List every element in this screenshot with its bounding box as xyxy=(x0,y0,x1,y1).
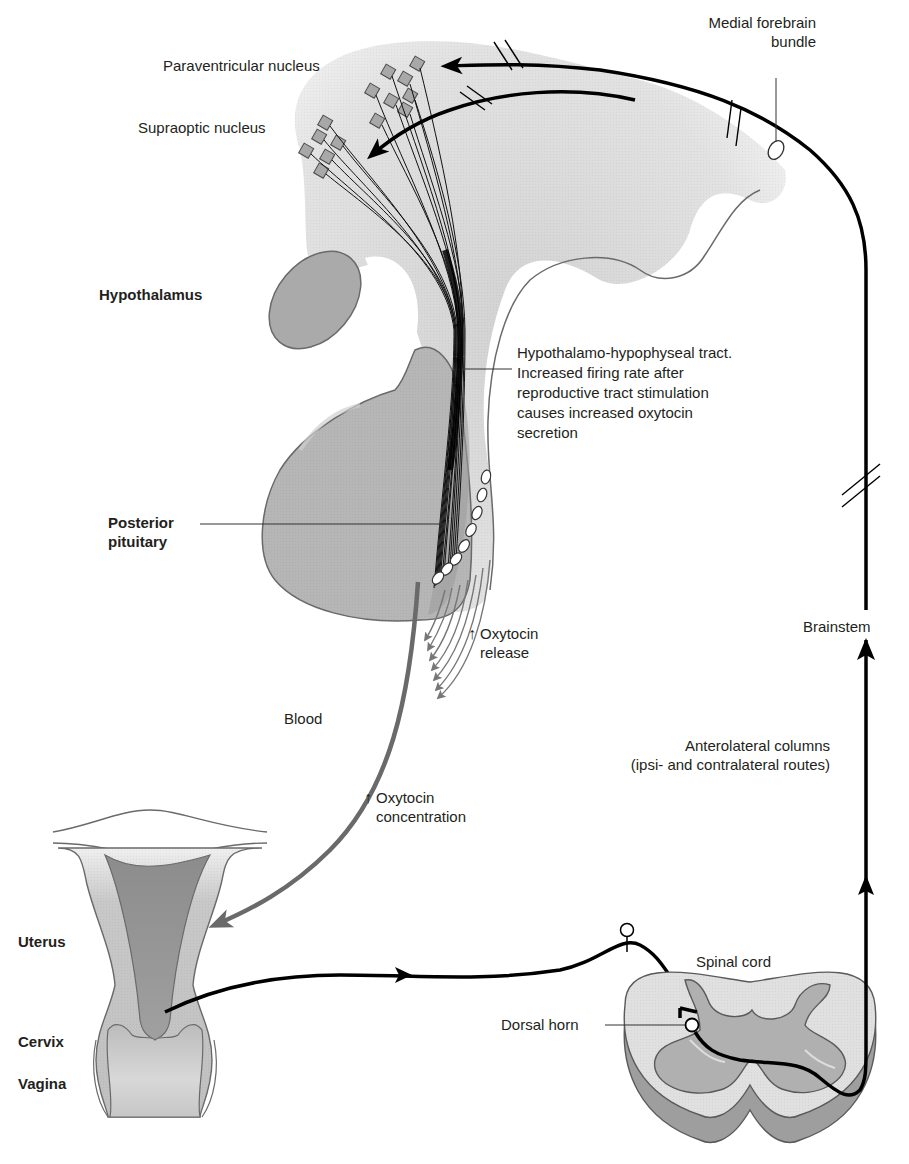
label-tract-line1: Hypothalamo-hypophyseal tract. xyxy=(517,343,732,363)
uterus-shape xyxy=(53,810,267,1117)
label-cervix: Cervix xyxy=(18,1032,64,1051)
label-medial-forebrain-bundle: Medial forebrain bundle xyxy=(686,13,816,51)
afferent-nerve-path xyxy=(165,943,688,1012)
label-oxytocin-concentration: ↑ Oxytocin concentration xyxy=(364,788,466,826)
label-tract-line4: causes increased oxytocin xyxy=(517,403,732,423)
blood-path xyxy=(215,582,418,925)
label-oc-line2: concentration xyxy=(376,807,466,826)
label-blood: Blood xyxy=(284,709,322,728)
label-brainstem: Brainstem xyxy=(803,617,871,636)
label-anterolateral-columns: Anterolateral columns (ipsi- and contral… xyxy=(600,736,830,774)
dorsal-root-ganglion-icon xyxy=(621,924,634,937)
label-vagina: Vagina xyxy=(18,1074,66,1093)
label-spinal-cord: Spinal cord xyxy=(696,952,771,971)
oxytocin-reflex-diagram xyxy=(0,0,909,1164)
label-uterus: Uterus xyxy=(18,932,66,951)
label-pp-line2: pituitary xyxy=(108,532,174,551)
label-pp-line1: Posterior xyxy=(108,513,174,532)
label-tract-line5: secretion xyxy=(517,423,732,443)
label-al-line2: (ipsi- and contralateral routes) xyxy=(600,755,830,774)
spinal-cord-shape xyxy=(624,972,875,1142)
label-posterior-pituitary: Posterior pituitary xyxy=(108,513,174,551)
label-hypothalamo-hypophyseal-tract: Hypothalamo-hypophyseal tract. Increased… xyxy=(517,343,732,443)
increase-arrow-icon: ↑ xyxy=(468,624,476,643)
label-oxytocin-release: ↑ Oxytocin release xyxy=(468,624,538,662)
increase-arrow-icon: ↑ xyxy=(364,788,372,807)
label-dorsal-horn: Dorsal horn xyxy=(501,1015,579,1034)
label-al-line1: Anterolateral columns xyxy=(600,736,830,755)
label-supraoptic-nucleus: Supraoptic nucleus xyxy=(138,118,266,137)
label-or-line1: Oxytocin xyxy=(480,624,538,643)
label-mfb-line2: bundle xyxy=(686,32,816,51)
label-tract-line3: reproductive tract stimulation xyxy=(517,383,732,403)
dorsal-horn-neuron-icon xyxy=(686,1019,699,1032)
label-paraventricular-nucleus: Paraventricular nucleus xyxy=(163,56,320,75)
label-tract-line2: Increased firing rate after xyxy=(517,363,732,383)
label-oc-line1: Oxytocin xyxy=(376,788,466,807)
label-or-line2: release xyxy=(480,643,538,662)
label-mfb-line1: Medial forebrain xyxy=(686,13,816,32)
label-hypothalamus: Hypothalamus xyxy=(99,285,202,304)
